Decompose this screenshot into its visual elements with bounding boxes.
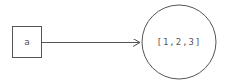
reference-diagram: a [1,2,3] [0, 0, 227, 81]
variable-node: a [13, 27, 42, 58]
object-value: [1,2,3] [157, 37, 202, 47]
object-node: [1,2,3] [142, 5, 216, 79]
variable-name: a [24, 37, 29, 47]
